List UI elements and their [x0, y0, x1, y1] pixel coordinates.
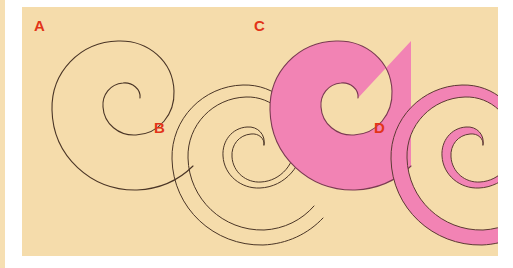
panel-label-b: B [154, 120, 165, 135]
page-edge-stripe [0, 0, 5, 268]
spiral-a-curve [52, 41, 193, 190]
spiral-c-fill [270, 41, 411, 190]
panel-label-a: A [34, 18, 45, 33]
figure-panel: A B C D [22, 7, 498, 256]
figure-root: A B C D [0, 0, 513, 268]
spirals-svg [22, 7, 498, 256]
panel-label-c: C [254, 18, 265, 33]
spiral-c-group [270, 41, 411, 190]
panel-label-d: D [374, 120, 385, 135]
spiral-a-group [52, 41, 193, 190]
